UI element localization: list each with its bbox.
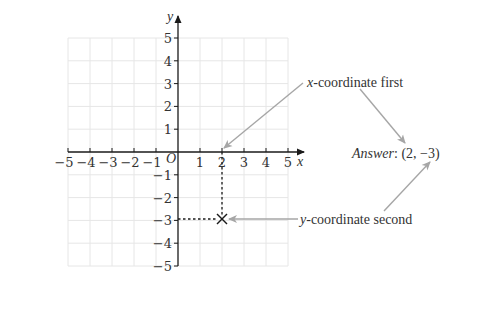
x-first-arrow-to-axis: [224, 83, 303, 148]
y-tick-label: −4: [153, 236, 172, 251]
x-tick-label: −4: [76, 155, 95, 170]
x-first-text: -coordinate first: [313, 75, 403, 90]
y-tick-label: −5: [153, 259, 172, 274]
y-tick-label: 3: [164, 77, 172, 92]
answer-value: : (2, −3): [394, 146, 440, 162]
y-tick-label: 2: [164, 99, 172, 114]
y-coordinate-second-label: y-coordinate second: [298, 212, 412, 227]
y-tick-label: 5: [164, 31, 172, 46]
y-tick-label: −1: [153, 168, 172, 183]
y-tick-label: 1: [164, 122, 172, 137]
x-tick-label: 1: [196, 155, 204, 170]
y-tick-label: −2: [153, 191, 172, 206]
x-tick-label: 4: [262, 155, 270, 170]
x-axis-label: x: [296, 154, 304, 169]
y-second-arrow-to-answer: [384, 162, 430, 211]
x-tick-label: 5: [284, 155, 292, 170]
x-coordinate-first-label: x-coordinate first: [306, 75, 403, 90]
origin-label: O: [166, 151, 176, 166]
answer-label: Answer: (2, −3): [351, 146, 440, 162]
x-first-arrow-to-answer: [360, 89, 405, 143]
x-tick-label: −5: [54, 155, 73, 170]
x-tick-label: −3: [98, 155, 117, 170]
y-tick-label: 4: [164, 54, 172, 69]
x-tick-label: 3: [240, 155, 248, 170]
x-tick-label: −2: [120, 155, 139, 170]
y-second-text: -coordinate second: [306, 212, 412, 227]
y-axis-label: y: [165, 9, 174, 24]
coordinate-diagram: −5 −4 −3 −2 −1 1 2 3 4 5 5 4 3 2 1 −1 −2…: [0, 0, 480, 322]
y-tick-label: −3: [153, 213, 172, 228]
answer-word: Answer: [351, 146, 395, 161]
